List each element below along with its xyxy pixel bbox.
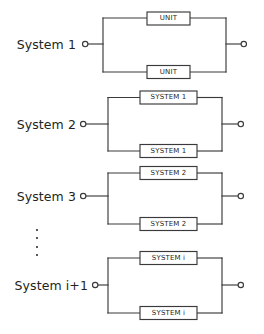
ellipsis-dot [36,254,38,256]
reliability-block-diagram: System 1 System 2 System 3 System i+1 UN… [0,0,264,334]
system-3-label: System 3 [0,189,76,204]
system-1-top-block-label: UNIT [147,12,190,25]
ellipsis-dot [36,237,38,239]
system-2-right-terminal [238,121,243,126]
system-3-left-terminal [81,193,86,198]
ellipsis-dot [36,246,38,248]
system-i-plus-1-label: System i+1 [0,278,88,293]
system-i-plus-1-top-block-label: SYSTEM i [140,252,197,265]
system-3-top-block-label: SYSTEM 2 [140,167,197,180]
system-1-left-terminal [83,41,88,46]
system-2-label: System 2 [0,117,76,132]
system-1-label: System 1 [0,37,76,52]
system-i-plus-1-bottom-block-label: SYSTEM i [140,307,197,320]
system-3-bottom-block-label: SYSTEM 2 [140,218,197,231]
system-2-bottom-block-label: SYSTEM 1 [140,145,197,158]
system-i-plus-1-right-terminal [238,282,243,287]
system-2-top-block-label: SYSTEM 1 [140,91,197,104]
system-1-bottom-block-label: UNIT [147,66,190,79]
system-i-plus-1-left-terminal [93,282,98,287]
system-3-right-terminal [238,193,243,198]
system-1-right-terminal [241,41,246,46]
system-2-left-terminal [81,121,86,126]
vertical-ellipsis-icon [31,229,43,256]
ellipsis-dot [36,229,38,231]
